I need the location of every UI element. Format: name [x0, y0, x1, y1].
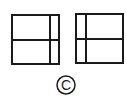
left-window-figure [12, 15, 59, 64]
right-window-figure [76, 14, 123, 63]
caption-text: C [61, 77, 71, 93]
diagram-canvas: C [0, 0, 126, 98]
caption-label: C [57, 76, 75, 94]
